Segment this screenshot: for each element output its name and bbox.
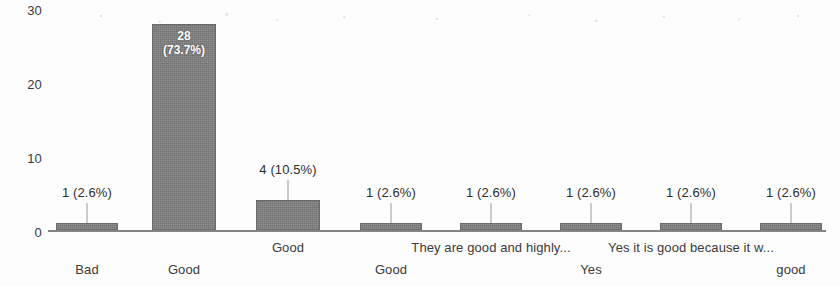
bar-group[interactable]: 4 (10.5%)	[256, 10, 320, 230]
plot-area: 1 (2.6%) 28 (73.7%) 4 (10.5%) 1 (2.6%)	[56, 10, 826, 232]
x-tick-label: Good	[168, 262, 200, 277]
bar-value-percent: (73.7%)	[163, 44, 205, 58]
x-tick-label: Yes	[580, 262, 602, 277]
bar[interactable]	[560, 223, 622, 230]
x-axis-baseline	[48, 230, 826, 232]
value-leader-line	[591, 203, 592, 223]
bar-value-label: 28 (73.7%)	[163, 30, 205, 58]
bar-group[interactable]: 1 (2.6%)	[460, 10, 522, 230]
y-tick-label: 20	[0, 77, 42, 92]
bar-value-label: 1 (2.6%)	[666, 185, 716, 200]
value-leader-line	[791, 203, 792, 223]
y-tick-label: 10	[0, 151, 42, 166]
bar[interactable]	[56, 223, 118, 230]
bar[interactable]	[660, 223, 722, 230]
bar-group[interactable]: 1 (2.6%)	[360, 10, 422, 230]
bar[interactable]	[360, 223, 422, 230]
bar[interactable]	[460, 223, 522, 230]
bar-value-label: 1 (2.6%)	[466, 185, 516, 200]
bar-chart-figure: 30 20 10 0 1 (2.6%) 28 (73.7%) 4 (10.5%)	[0, 0, 840, 286]
y-tick-label: 30	[0, 3, 42, 18]
x-tick-label: Good	[272, 240, 304, 255]
x-tick-label: Yes it is good because it w...	[608, 240, 774, 255]
value-leader-line	[391, 203, 392, 223]
x-tick-label: good	[776, 262, 805, 277]
value-leader-line	[491, 203, 492, 223]
bar-value-label: 1 (2.6%)	[62, 185, 112, 200]
value-leader-line	[87, 203, 88, 223]
bar-group[interactable]: 28 (73.7%)	[152, 10, 216, 230]
bar-value-label: 1 (2.6%)	[366, 185, 416, 200]
bar-value-label: 1 (2.6%)	[766, 185, 816, 200]
bar[interactable]	[256, 200, 320, 230]
x-tick-label: Bad	[75, 262, 98, 277]
x-tick-label: Good	[375, 262, 407, 277]
value-leader-line	[288, 180, 289, 200]
bar-value-label: 4 (10.5%)	[259, 162, 316, 177]
bar-group[interactable]: 1 (2.6%)	[56, 10, 118, 230]
bar-group[interactable]: 1 (2.6%)	[560, 10, 622, 230]
bar-group[interactable]: 1 (2.6%)	[760, 10, 822, 230]
bar[interactable]	[760, 223, 822, 230]
value-leader-line	[691, 203, 692, 223]
bar-group[interactable]: 1 (2.6%)	[660, 10, 722, 230]
y-tick-label: 0	[0, 225, 42, 240]
bar-value-label: 1 (2.6%)	[566, 185, 616, 200]
bar-value-count: 28	[163, 30, 205, 44]
x-tick-label: They are good and highly...	[411, 240, 570, 255]
